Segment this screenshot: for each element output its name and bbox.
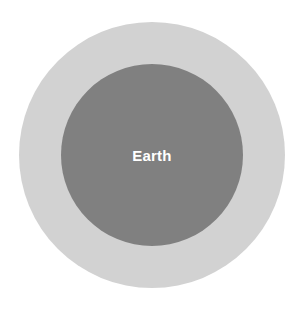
diagram-canvas: Earth [0, 0, 307, 309]
inner-circle-shape: Earth [61, 64, 243, 246]
inner-circle-label: Earth [61, 148, 243, 163]
